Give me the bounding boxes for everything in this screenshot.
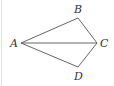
segments: [21, 18, 97, 67]
segment-CD: [78, 43, 97, 67]
segment-AB: [21, 18, 78, 43]
segment-BC: [78, 18, 97, 43]
geometry-diagram: ABCD: [0, 0, 114, 86]
point-label-a: A: [9, 37, 18, 50]
segment-DA: [21, 43, 78, 67]
point-label-b: B: [73, 3, 82, 16]
point-label-d: D: [73, 70, 83, 83]
point-label-c: C: [100, 37, 109, 50]
